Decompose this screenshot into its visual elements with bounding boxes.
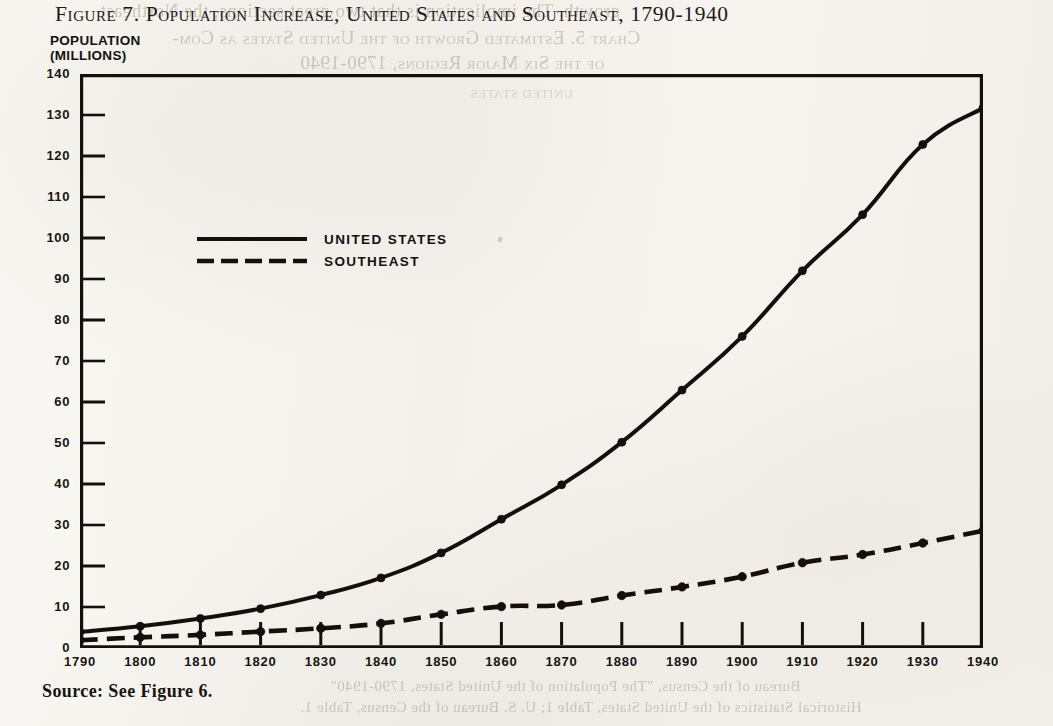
x-tick-label-1910: 1910 bbox=[786, 654, 818, 669]
axis-tick-marks bbox=[83, 115, 923, 648]
data-point-1930 bbox=[919, 539, 927, 547]
data-point-1850 bbox=[437, 549, 445, 557]
x-tick-label-1790: 1790 bbox=[64, 654, 96, 669]
data-point-1790 bbox=[80, 636, 84, 644]
y-axis-unit-line-1: POPULATION bbox=[50, 33, 141, 48]
data-point-1830 bbox=[317, 624, 325, 632]
y-tick-label-70: 70 bbox=[54, 353, 70, 368]
y-tick-label-140: 140 bbox=[47, 66, 71, 81]
data-point-1790 bbox=[80, 628, 84, 636]
data-point-1920 bbox=[858, 550, 866, 558]
data-point-1890 bbox=[678, 583, 686, 591]
data-point-1860 bbox=[497, 602, 505, 610]
show-through-text-line-2: Chart 5. Estimated Growth of the United … bbox=[172, 27, 640, 49]
x-tick-label-1890: 1890 bbox=[666, 654, 698, 669]
data-point-1890 bbox=[678, 386, 686, 394]
x-tick-label-1830: 1830 bbox=[305, 654, 337, 669]
y-tick-label-130: 130 bbox=[47, 107, 71, 122]
data-point-1820 bbox=[256, 627, 264, 635]
data-point-1900 bbox=[738, 332, 746, 340]
data-point-1800 bbox=[136, 633, 144, 641]
chart-legend: UNITED STATES SOUTHEAST bbox=[196, 228, 447, 272]
data-point-1860 bbox=[497, 515, 505, 523]
x-axis-tick-labels: 1790180018101820183018401850186018701880… bbox=[80, 654, 983, 674]
x-tick-label-1900: 1900 bbox=[726, 654, 758, 669]
data-point-1870 bbox=[557, 601, 565, 609]
plot-area bbox=[80, 74, 983, 648]
y-axis-unit-label: POPULATION(MILLIONS) bbox=[50, 33, 141, 63]
data-point-1810 bbox=[196, 631, 204, 639]
y-tick-label-20: 20 bbox=[54, 558, 70, 573]
x-tick-label-1930: 1930 bbox=[907, 654, 939, 669]
data-point-1920 bbox=[859, 211, 867, 219]
show-through-text-line-3: of the Six Major Regions, 1790-1940 bbox=[300, 52, 604, 74]
y-tick-label-110: 110 bbox=[47, 189, 70, 204]
x-tick-label-1940: 1940 bbox=[967, 654, 999, 669]
y-tick-label-40: 40 bbox=[54, 476, 70, 491]
data-point-1840 bbox=[377, 574, 385, 582]
x-tick-label-1850: 1850 bbox=[425, 654, 457, 669]
data-point-1900 bbox=[738, 572, 746, 580]
data-series-layer bbox=[80, 104, 983, 644]
data-point-1930 bbox=[919, 141, 927, 149]
x-tick-label-1870: 1870 bbox=[546, 654, 578, 669]
x-tick-label-1810: 1810 bbox=[184, 654, 216, 669]
legend-swatch-dashed bbox=[196, 254, 308, 268]
axis-frame bbox=[80, 76, 983, 648]
x-tick-label-1920: 1920 bbox=[847, 654, 879, 669]
y-tick-label-50: 50 bbox=[54, 435, 70, 450]
data-point-1830 bbox=[317, 591, 325, 599]
legend-entry-southeast: SOUTHEAST bbox=[196, 250, 447, 272]
data-point-1880 bbox=[618, 591, 626, 599]
legend-swatch-solid bbox=[196, 232, 308, 246]
x-tick-label-1820: 1820 bbox=[245, 654, 277, 669]
chart-canvas bbox=[80, 74, 983, 648]
show-through-text-line-5: Historical Statistics of the United Stat… bbox=[300, 699, 862, 716]
legend-label-united-states: UNITED STATES bbox=[324, 232, 447, 247]
x-tick-label-1840: 1840 bbox=[365, 654, 397, 669]
y-tick-label-0: 0 bbox=[62, 640, 70, 655]
y-tick-label-80: 80 bbox=[54, 312, 70, 327]
series-southeast bbox=[80, 527, 983, 645]
data-point-1820 bbox=[257, 605, 265, 613]
y-tick-label-10: 10 bbox=[54, 599, 70, 614]
data-point-1880 bbox=[618, 438, 626, 446]
y-axis-unit-line-2: (MILLIONS) bbox=[50, 48, 141, 63]
legend-entry-united-states: UNITED STATES bbox=[196, 228, 447, 250]
source-note: Source: See Figure 6. bbox=[42, 681, 213, 702]
y-axis-tick-labels: 0102030405060708090100110120130140 bbox=[18, 74, 70, 648]
show-through-text-line-4: Bureau of the Census, "The Population of… bbox=[330, 678, 801, 695]
y-tick-label-30: 30 bbox=[54, 517, 70, 532]
figure-title: Figure 7. Population Increase, United St… bbox=[55, 2, 1015, 27]
data-point-1840 bbox=[377, 619, 385, 627]
data-point-1850 bbox=[437, 610, 445, 618]
x-tick-label-1880: 1880 bbox=[606, 654, 638, 669]
data-point-1910 bbox=[798, 267, 806, 275]
y-tick-label-90: 90 bbox=[54, 271, 70, 286]
data-point-1870 bbox=[558, 481, 566, 489]
y-tick-label-60: 60 bbox=[54, 394, 70, 409]
legend-label-southeast: SOUTHEAST bbox=[324, 254, 420, 269]
data-point-1910 bbox=[798, 559, 806, 567]
y-tick-label-120: 120 bbox=[47, 148, 71, 163]
data-point-1810 bbox=[196, 614, 204, 622]
x-tick-label-1800: 1800 bbox=[124, 654, 156, 669]
y-tick-label-100: 100 bbox=[47, 230, 71, 245]
figure-page: growth. The implication is that two grea… bbox=[0, 0, 1053, 726]
data-point-1800 bbox=[136, 622, 144, 630]
x-tick-label-1860: 1860 bbox=[485, 654, 517, 669]
